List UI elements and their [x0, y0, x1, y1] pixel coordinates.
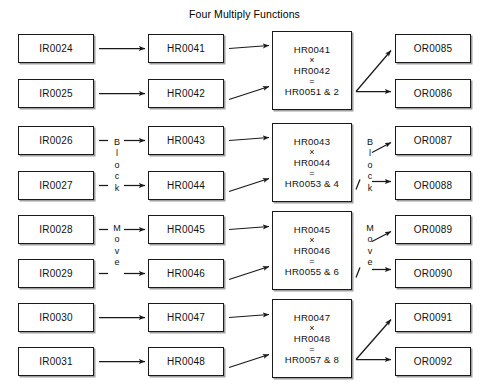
output-box-2[interactable]: OR0087: [395, 126, 471, 155]
multiply-box-0[interactable]: HR0041 × HR0042 = HR0051 & 2: [272, 31, 352, 110]
input-label-0: IR0024: [39, 43, 72, 54]
holding-label-0: HR0041: [167, 43, 205, 54]
block-letter-0: B: [110, 137, 124, 148]
move-letter-3: e: [110, 257, 124, 268]
multiply-equals-1: =: [309, 169, 314, 178]
output-label-3: OR0088: [414, 180, 452, 191]
multiply-result-1: HR0053 & 4: [285, 178, 339, 190]
edge-multiply-to-output-0: [356, 51, 391, 92]
output-label-0: OR0085: [414, 43, 452, 54]
multiply-box-1[interactable]: HR0043 × HR0044 = HR0053 & 4: [272, 123, 352, 202]
holding-label-3: HR0044: [167, 180, 205, 191]
output-label-2: OR0087: [414, 135, 452, 146]
block-letter-r3: c: [363, 171, 377, 182]
edge-holding-to-multiply-2: [229, 138, 269, 141]
input-box-0[interactable]: IR0024: [18, 34, 94, 63]
output-box-7[interactable]: OR0092: [395, 347, 471, 376]
block-letter-3: c: [110, 171, 124, 182]
holding-label-1: HR0042: [167, 88, 205, 99]
multiply-box-3[interactable]: HR0047 × HR0048 = HR0057 & 8: [272, 299, 352, 378]
left-block-vertical-label: B l o c k: [110, 137, 124, 194]
holding-label-4: HR0045: [167, 224, 205, 235]
holding-box-4[interactable]: HR0045: [148, 215, 224, 244]
multiply-operator-3: ×: [309, 324, 314, 333]
output-box-3[interactable]: OR0088: [395, 171, 471, 200]
holding-label-6: HR0047: [167, 312, 205, 323]
output-box-5[interactable]: OR0090: [395, 259, 471, 288]
multiply-result-2: HR0055 & 6: [285, 266, 339, 278]
output-label-1: OR0086: [414, 88, 452, 99]
output-label-7: OR0092: [414, 356, 452, 367]
block-letter-4: k: [110, 183, 124, 194]
multiply-functions-diagram: Four Multiply Functions IR0024 IR0025 IR…: [0, 0, 489, 386]
holding-box-0[interactable]: HR0041: [148, 34, 224, 63]
move-letter-1: o: [110, 234, 124, 245]
block-letter-r1: l: [363, 148, 377, 159]
edge-holding-to-multiply-6: [229, 315, 269, 318]
move-letter-r1: o: [363, 234, 377, 245]
edge-multiply-to-output-6: [356, 320, 391, 360]
block-letter-r0: B: [363, 137, 377, 148]
move-letter-2: v: [110, 246, 124, 257]
output-label-6: OR0091: [414, 312, 452, 323]
edge-holding-to-multiply-3: [229, 179, 269, 192]
input-box-5[interactable]: IR0029: [18, 259, 94, 288]
output-box-6[interactable]: OR0091: [395, 303, 471, 332]
block-letter-2: o: [110, 160, 124, 171]
holding-label-5: HR0046: [167, 268, 205, 279]
block-letter-1: l: [110, 148, 124, 159]
input-box-4[interactable]: IR0028: [18, 215, 94, 244]
holding-box-3[interactable]: HR0044: [148, 171, 224, 200]
multiply-box-2[interactable]: HR0045 × HR0046 = HR0055 & 6: [272, 211, 352, 290]
move-letter-r3: e: [363, 257, 377, 268]
multiply-operator-0: ×: [309, 56, 314, 65]
diagram-title: Four Multiply Functions: [0, 8, 489, 20]
holding-label-7: HR0048: [167, 356, 205, 367]
multiply-operator-1: ×: [309, 148, 314, 157]
output-box-0[interactable]: OR0085: [395, 34, 471, 63]
edge-holding-to-multiply-5: [229, 267, 269, 280]
move-letter-0: M: [110, 223, 124, 234]
edge-multiply-stub-1: [356, 180, 360, 190]
input-label-7: IR0031: [39, 356, 72, 367]
multiply-equals-0: =: [309, 77, 314, 86]
block-letter-r4: k: [363, 183, 377, 194]
edge-holding-to-multiply-1: [229, 87, 269, 100]
multiply-result-0: HR0051 & 2: [285, 86, 339, 98]
move-letter-r0: M: [363, 223, 377, 234]
holding-label-2: HR0043: [167, 135, 205, 146]
input-label-2: IR0026: [39, 135, 72, 146]
input-box-3[interactable]: IR0027: [18, 171, 94, 200]
input-label-4: IR0028: [39, 224, 72, 235]
input-label-6: IR0030: [39, 312, 72, 323]
move-letter-r2: v: [363, 246, 377, 257]
block-letter-r2: o: [363, 160, 377, 171]
holding-box-5[interactable]: HR0046: [148, 259, 224, 288]
holding-box-7[interactable]: HR0048: [148, 347, 224, 376]
holding-box-2[interactable]: HR0043: [148, 126, 224, 155]
input-box-1[interactable]: IR0025: [18, 79, 94, 108]
output-label-4: OR0089: [414, 224, 452, 235]
output-label-5: OR0090: [414, 268, 452, 279]
multiply-operator-2: ×: [309, 236, 314, 245]
left-move-vertical-label: M o v e: [110, 223, 124, 269]
output-box-4[interactable]: OR0089: [395, 215, 471, 244]
input-label-1: IR0025: [39, 88, 72, 99]
output-box-1[interactable]: OR0086: [395, 79, 471, 108]
multiply-equals-2: =: [309, 257, 314, 266]
right-move-vertical-label: M o v e: [363, 223, 377, 269]
input-box-6[interactable]: IR0030: [18, 303, 94, 332]
edge-holding-to-multiply-7: [229, 355, 269, 368]
holding-box-1[interactable]: HR0042: [148, 79, 224, 108]
input-box-2[interactable]: IR0026: [18, 126, 94, 155]
multiply-equals-3: =: [309, 345, 314, 354]
edge-holding-to-multiply-0: [229, 46, 269, 49]
multiply-result-3: HR0057 & 8: [285, 354, 339, 366]
input-label-3: IR0027: [39, 180, 72, 191]
holding-box-6[interactable]: HR0047: [148, 303, 224, 332]
right-block-vertical-label: B l o c k: [363, 137, 377, 194]
input-box-7[interactable]: IR0031: [18, 347, 94, 376]
edge-multiply-stub-2: [356, 268, 360, 278]
input-label-5: IR0029: [39, 268, 72, 279]
edge-holding-to-multiply-4: [229, 227, 269, 230]
